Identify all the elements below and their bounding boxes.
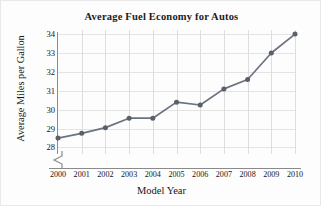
- x-axis-title: Model Year: [1, 185, 321, 196]
- data-point-marker: [103, 125, 108, 130]
- y-axis-title: Average Miles per Gallon: [15, 14, 26, 164]
- data-point-marker: [198, 102, 203, 107]
- data-point-marker: [245, 77, 250, 82]
- data-point-marker: [174, 100, 179, 105]
- data-point-marker: [127, 116, 132, 121]
- data-point-marker: [221, 86, 226, 91]
- data-point-marker: [150, 116, 155, 121]
- data-point-marker: [269, 51, 274, 56]
- chart-figure: Average Fuel Economy for Autos 34 33 32 …: [0, 0, 321, 206]
- data-point-marker: [79, 131, 84, 136]
- data-point-marker: [56, 136, 61, 141]
- data-point-marker: [293, 32, 298, 37]
- x-tick-label: 2010: [278, 171, 312, 179]
